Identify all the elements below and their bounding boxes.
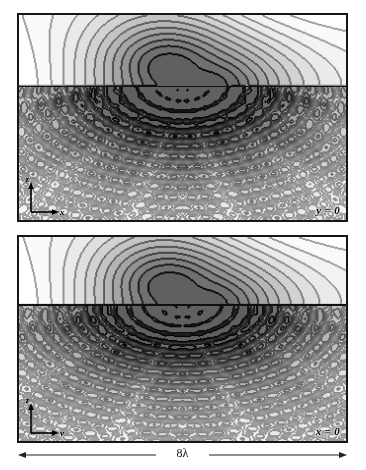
scale-bar-text: 8λ <box>177 446 189 460</box>
axis-label-horizontal-top: x <box>59 207 65 216</box>
figure-container: z x y = 0 z y x = 0 <box>0 0 366 470</box>
contour-panel-x0: z y x = 0 <box>17 235 348 443</box>
interface-line-bottom <box>19 304 346 305</box>
axis-triad-bottom: z y <box>23 395 69 437</box>
scale-bar-label: 8λ <box>17 446 348 460</box>
scale-bar: 8λ <box>17 446 348 466</box>
axis-label-vertical-top: z <box>25 174 30 184</box>
panel-label-y0: y = 0 <box>316 204 340 216</box>
axis-label-vertical-bottom: z <box>25 395 30 405</box>
axis-label-horizontal-bottom: y <box>59 428 65 437</box>
panel-label-x0: x = 0 <box>316 425 340 437</box>
axis-triad-top: z x <box>23 174 69 216</box>
interface-line-top <box>19 86 346 87</box>
contour-panel-y0: z x y = 0 <box>17 13 348 222</box>
